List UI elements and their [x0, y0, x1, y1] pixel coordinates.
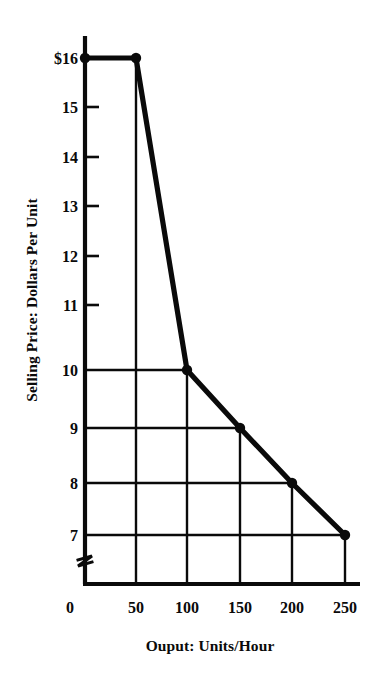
y-tick-label-13: 13 [62, 198, 78, 215]
data-point-250-7 [340, 530, 350, 540]
y-tick-label-12: 12 [62, 248, 78, 265]
y-tick-label-8: 8 [70, 475, 78, 492]
y-axis-title: Selling Price: Dollars Per Unit [23, 198, 40, 402]
data-point-50-16 [131, 53, 141, 63]
price-output-line-chart: $16 15 14 13 12 11 10 9 8 7 0 50 100 150… [0, 0, 377, 683]
x-tick-label-200: 200 [280, 599, 304, 616]
chart-container: $16 15 14 13 12 11 10 9 8 7 0 50 100 150… [0, 0, 377, 683]
y-tick-label-11: 11 [63, 297, 78, 314]
data-point-150-9 [235, 423, 245, 433]
y-tick-label-15: 15 [62, 99, 78, 116]
x-tick-label-0: 0 [66, 599, 74, 616]
y-tick-label-9: 9 [70, 420, 78, 437]
data-point-0-16 [80, 53, 90, 63]
x-tick-label-250: 250 [333, 599, 357, 616]
data-point-100-10 [182, 365, 192, 375]
data-point-200-8 [287, 478, 297, 488]
x-tick-label-150: 150 [228, 599, 252, 616]
y-tick-label-7: 7 [70, 527, 78, 544]
x-axis-title: Ouput: Units/Hour [146, 637, 275, 654]
y-tick-label-14: 14 [62, 149, 78, 166]
chart-background [0, 0, 377, 683]
x-tick-label-100: 100 [175, 599, 199, 616]
y-tick-label-16: $16 [54, 50, 78, 67]
x-tick-label-50: 50 [128, 599, 144, 616]
y-tick-label-10: 10 [62, 362, 78, 379]
